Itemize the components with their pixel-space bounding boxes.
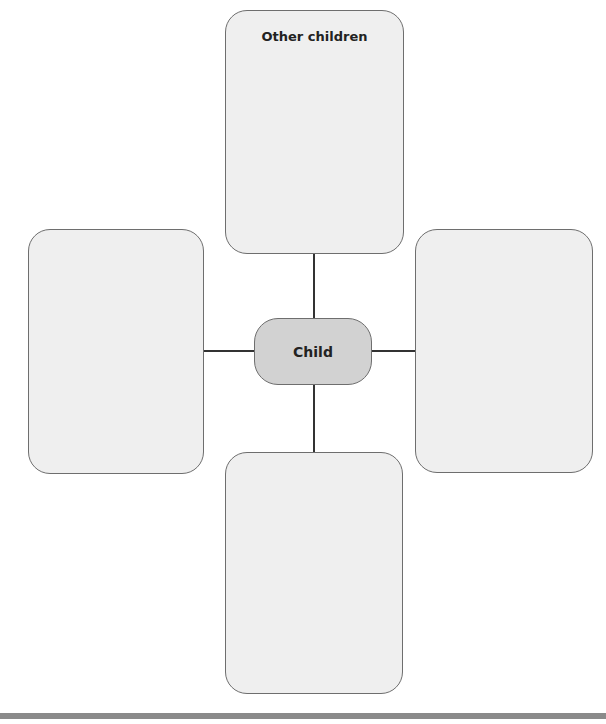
center-node-label: Child [293, 344, 333, 360]
top-box-other-children: Other children [225, 10, 404, 254]
connector-left [204, 350, 254, 352]
bottom-box [225, 452, 403, 694]
right-box [415, 229, 593, 473]
footer-divider-bar [0, 713, 606, 719]
connector-top [313, 254, 315, 318]
connector-right [372, 350, 415, 352]
center-node-child: Child [254, 318, 372, 385]
left-box [28, 229, 204, 474]
top-box-label: Other children [226, 29, 403, 44]
connector-bottom [313, 385, 315, 452]
